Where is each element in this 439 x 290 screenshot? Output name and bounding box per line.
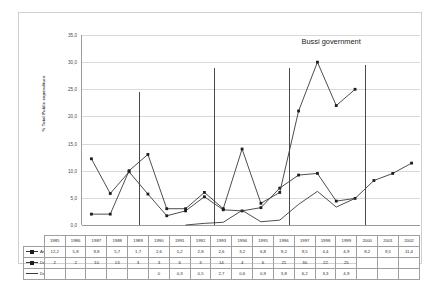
table-cell [378,257,399,268]
bussi-government-annotation: Bussi government [302,37,361,46]
table-cell [398,268,419,279]
year-header-1999: 1999 [336,235,357,246]
year-header-1987: 1987 [86,235,107,246]
table-body: 1985198619871988198919901991199219931994… [24,235,420,279]
data-point [260,202,263,205]
table-cell: 11,4 [398,246,419,257]
y-tick-20-0: 20,0 [53,114,77,119]
legend-marker-icon [26,260,38,266]
table-cell: 0,9 [253,268,274,279]
table-cell [86,268,107,279]
table-cell: 6 [169,257,190,268]
data-point [316,61,319,64]
data-point [373,179,376,182]
table-cell: 3 [128,257,149,268]
data-point [222,207,225,210]
table-cell: 6 [253,257,274,268]
table-cell: 4,4 [315,246,336,257]
data-point [410,162,413,165]
legend-cell-1: Debt burden [24,257,45,268]
legend-label: Debt burden [40,260,44,265]
table-cell [44,268,65,279]
table-cell: 2,8 [190,246,211,257]
table-cell: 14 [211,257,232,268]
table-cell [357,257,378,268]
table-cell: 3 [148,257,169,268]
data-point [147,153,150,156]
table-cell: 5,8 [65,246,86,257]
series-lines [82,35,421,225]
data-point [297,174,300,177]
year-header-1993: 1993 [211,235,232,246]
table-cell: 3,8 [273,268,294,279]
data-point [109,192,112,195]
figure-frame: % Total Public expenditure 35,030,025,02… [18,12,422,264]
table-cell: 2,6 [148,246,169,257]
table-row: Debt burden2210133363144621302225 [24,257,420,268]
year-header-2000: 2000 [357,235,378,246]
table-cell: 4,9 [336,268,357,279]
data-point [184,207,187,210]
table-cell: 1,7 [128,246,149,257]
table-cell: 8,2 [357,246,378,257]
table-row-years: 1985198619871988198919901991199219931994… [24,235,420,246]
data-point [165,207,168,210]
year-header-1990: 1990 [148,235,169,246]
year-header-2001: 2001 [378,235,399,246]
table-cell: 3,2 [232,246,253,257]
chart-screenshot: % Total Public expenditure 35,030,025,02… [0,0,439,290]
year-header-1991: 1991 [169,235,190,246]
table-cell: 5,2 [169,246,190,257]
data-point [109,213,112,216]
data-point [335,104,338,107]
data-point [165,214,168,217]
data-point [90,157,93,160]
data-point [260,206,263,209]
table-corner-cell [24,235,45,246]
legend-cell-2: Debt redeeming [24,268,45,279]
table-cell: 0,3 [169,268,190,279]
table-header-row [24,225,420,235]
table-cell [357,268,378,279]
table-cell [398,257,419,268]
table-cell: 10 [86,257,107,268]
year-header-1988: 1988 [107,235,128,246]
y-tick-15-0: 15,0 [53,141,77,146]
table-corner-cell [24,225,45,235]
data-point [90,213,93,216]
table-cell: 25 [336,257,357,268]
table-cell: 4,9 [336,246,357,257]
y-tick-25-0: 25,0 [53,87,77,92]
table-cell [65,268,86,279]
year-header-1998: 1998 [315,235,336,246]
data-point [335,200,338,203]
legend-label: Debt redeeming [40,271,44,276]
year-header-1986: 1986 [65,235,86,246]
year-header-1996: 1996 [273,235,294,246]
year-header-1995: 1995 [253,235,274,246]
series-line-0 [91,159,411,216]
table-cell: 0,6 [232,268,253,279]
table-cell: 6,2 [294,268,315,279]
table-cell: 9,8 [86,246,107,257]
data-point [354,88,357,91]
data-point [297,110,300,113]
table-cell: 3,3 [315,268,336,279]
year-header-1997: 1997 [294,235,315,246]
table-cell: 5,7 [107,246,128,257]
table-cell [378,268,399,279]
data-point [147,193,150,196]
table-cell: 0,5 [190,268,211,279]
table-cell: 13 [107,257,128,268]
table-cell: 9,5 [378,246,399,257]
table-cell: 9,5 [294,246,315,257]
table-cell: 2,7 [211,268,232,279]
data-point [203,191,206,194]
table-cell: 21 [273,257,294,268]
data-point [128,169,131,172]
legend-cell-0: Amount of Bocades [24,246,45,257]
table-cell: 4 [232,257,253,268]
y-tick-35-0: 35,0 [53,33,77,38]
year-header-1989: 1989 [128,235,149,246]
data-point [203,195,206,198]
